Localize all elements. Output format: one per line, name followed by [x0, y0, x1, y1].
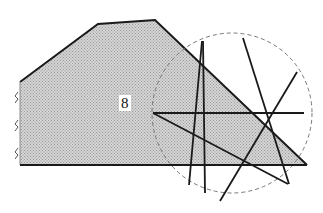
shaded-region [20, 20, 307, 165]
wall-hatch-marks [15, 92, 18, 159]
region-label: 8 [119, 95, 131, 111]
geometry-diagram [0, 0, 323, 213]
